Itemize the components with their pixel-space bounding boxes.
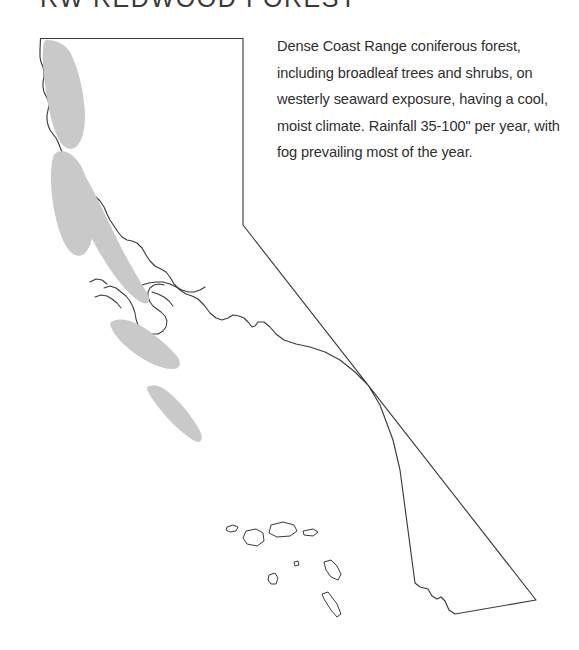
- california-state-map: [0, 0, 579, 650]
- forest-region-sonoma-marin-coast: [110, 319, 180, 369]
- island-anacapa: [303, 529, 318, 536]
- island-santa-cruz-island: [269, 522, 297, 537]
- island-san-miguel: [226, 525, 238, 532]
- forest-region-santa-cruz-big-sur-coast: [147, 385, 202, 442]
- island-san-clemente: [322, 592, 341, 617]
- carquinez-strait-detail: [95, 295, 121, 308]
- point-reyes-detail: [90, 279, 107, 284]
- island-santa-rosa: [243, 529, 264, 546]
- island-santa-barbara-island: [294, 561, 299, 566]
- island-santa-catalina: [324, 560, 341, 580]
- suisun-bay-detail: [152, 292, 173, 306]
- island-san-nicolas: [268, 573, 278, 584]
- map-figure: RW REDWOOD FOREST Dense Coast Range coni…: [0, 0, 579, 650]
